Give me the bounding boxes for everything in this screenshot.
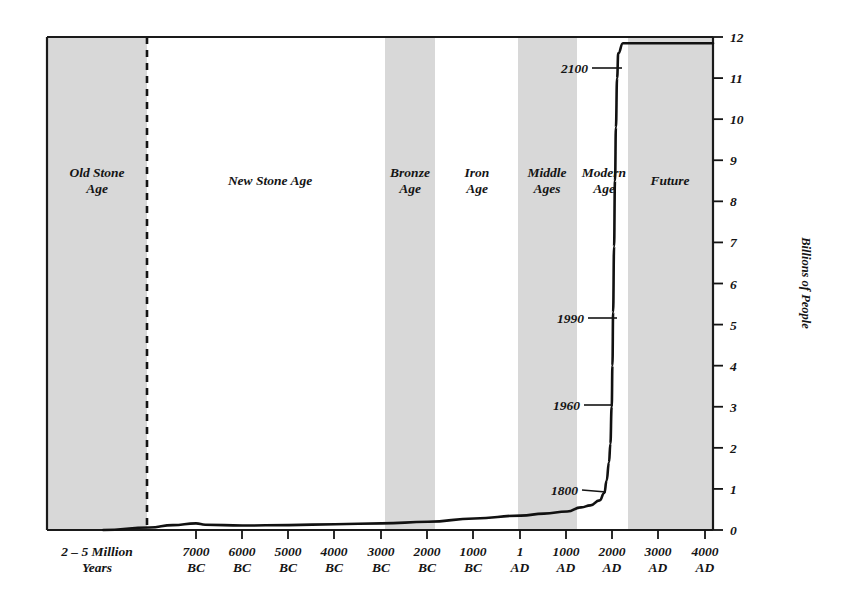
x-tick-label: 3000 [644, 544, 672, 559]
x-tick-label: 4000 [320, 544, 348, 559]
x-axis: 2 – 5 MillionYears7000BC6000BC5000BC4000… [60, 530, 719, 575]
y-tick-label: 6 [730, 277, 737, 292]
y-tick-label: 5 [730, 318, 737, 333]
x-tick-label: 2000 [413, 544, 441, 559]
era-label-modern-age-line1: Modern [581, 165, 626, 180]
x-tick-label: 2000 [598, 544, 626, 559]
y-axis-title: Billions of People [799, 236, 813, 329]
era-label-old-stone-age-line1: Old Stone [69, 165, 124, 180]
y-tick-label: 7 [730, 235, 738, 250]
x-tick-label: AD [695, 560, 715, 575]
x-tick-label: 1000 [553, 544, 580, 559]
era-band-middle-ages [518, 37, 577, 530]
annotation-leader-1800 [582, 490, 606, 492]
x-tick-label: AD [602, 560, 622, 575]
era-label-bronze-age-line1: Bronze [389, 165, 430, 180]
era-band-old-stone-age [47, 37, 147, 530]
x-tick-label: BC [371, 560, 391, 575]
x-tick-label: BC [463, 560, 483, 575]
era-labels: Old Stone Age New Stone Age Bronze Age I… [69, 165, 689, 196]
x-tick-label: 1000 [460, 544, 487, 559]
era-label-middle-ages-line1: Middle [527, 165, 567, 180]
x-tick-label: 3000 [367, 544, 395, 559]
era-label-iron-age-line1: Iron [464, 165, 490, 180]
y-tick-label: 11 [730, 71, 743, 86]
y-axis: 0123456789101112 [713, 30, 744, 538]
x-tick-label: BC [278, 560, 298, 575]
y-tick-label: 0 [730, 523, 737, 538]
era-band-bronze-age [385, 37, 435, 530]
era-label-bronze-age-line2: Age [398, 181, 421, 196]
annotation-label-1960: 1960 [553, 398, 580, 413]
x-tick-label: 6000 [229, 544, 256, 559]
x-tick-label: BC [232, 560, 252, 575]
x-tick-label: AD [510, 560, 530, 575]
y-tick-label: 4 [729, 359, 737, 374]
annotation-label-1800: 1800 [551, 483, 578, 498]
y-tick-label: 9 [730, 153, 737, 168]
x-tick-label: AD [648, 560, 668, 575]
x-tick-label: Years [82, 560, 112, 575]
era-label-new-stone-age: New Stone Age [227, 173, 312, 188]
x-tick-label: BC [186, 560, 206, 575]
x-tick-label: BC [417, 560, 437, 575]
chart-canvas: Old Stone Age New Stone Age Bronze Age I… [0, 0, 844, 607]
annotation-label-1990: 1990 [557, 311, 584, 326]
x-tick-label: 4000 [691, 544, 719, 559]
y-tick-label: 12 [730, 30, 744, 45]
y-tick-label: 3 [729, 400, 737, 415]
era-label-future: Future [649, 173, 689, 188]
era-label-middle-ages-line2: Ages [533, 181, 561, 196]
x-tick-label: 2 – 5 Million [60, 544, 133, 559]
era-band-future [628, 37, 713, 530]
x-tick-label: BC [324, 560, 344, 575]
x-tick-label: AD [556, 560, 576, 575]
x-tick-label: 7000 [183, 544, 210, 559]
era-label-iron-age-line2: Age [465, 181, 488, 196]
x-tick-label: 1 [517, 544, 524, 559]
y-tick-label: 10 [730, 112, 744, 127]
annotation-label-2100: 2100 [560, 61, 588, 76]
y-tick-label: 8 [730, 194, 737, 209]
y-tick-label: 2 [729, 441, 737, 456]
era-label-modern-age-line2: Age [592, 181, 615, 196]
x-tick-label: 5000 [275, 544, 302, 559]
population-history-chart: Old Stone Age New Stone Age Bronze Age I… [0, 0, 844, 607]
era-label-old-stone-age-line2: Age [85, 181, 108, 196]
y-tick-label: 1 [730, 482, 737, 497]
